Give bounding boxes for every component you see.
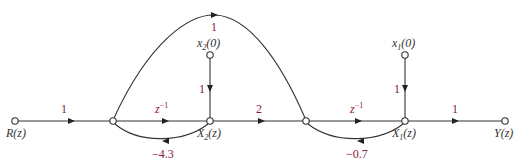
- label-x2: X2(z): [196, 126, 221, 142]
- signal-flow-graph: 1 z−1 2 z−1 1 1 −4.3 −0.7 1 1 R(z) X2(z)…: [0, 0, 520, 166]
- label-r: R(z): [5, 126, 26, 140]
- gain-x2-0: 1: [199, 82, 205, 96]
- node-x1-0: [402, 52, 408, 58]
- label-y: Y(z): [494, 126, 513, 140]
- edge-x2-to-a-feedback: [115, 124, 208, 139]
- arrow-icon-r-a: [68, 118, 75, 124]
- arrow-icon-x1-0: [402, 85, 408, 92]
- node-x1: [402, 118, 408, 124]
- gain-b-x1: z−1: [349, 101, 363, 116]
- arrow-icon-x1-y: [452, 118, 459, 124]
- node-b: [303, 118, 309, 124]
- label-x2-0: x2(0): [196, 36, 220, 52]
- gain-x2-b: 2: [256, 102, 262, 116]
- arrow-icon-a-x2: [162, 118, 169, 124]
- arrow-icon-x2-b: [258, 118, 265, 124]
- node-x2: [207, 118, 213, 124]
- label-x1-0: x1(0): [391, 36, 415, 52]
- node-r: [12, 118, 18, 124]
- node-y: [502, 118, 508, 124]
- edge-x1-to-b-feedback: [308, 124, 403, 139]
- gain-fb-x2-a: −4.3: [152, 147, 174, 161]
- node-x2-0: [207, 52, 213, 58]
- arrow-icon-arc: [211, 12, 218, 18]
- gain-a-x2: z−1: [154, 101, 168, 116]
- gain-x1-0: 1: [394, 82, 400, 96]
- gain-fb-x1-b: −0.7: [346, 147, 368, 161]
- gain-x1-y: 1: [452, 102, 458, 116]
- arrow-icon-b-x1: [355, 118, 362, 124]
- gain-arc: 1: [211, 20, 217, 34]
- gain-r-a: 1: [61, 102, 67, 116]
- node-a: [110, 118, 116, 124]
- arrow-icon-x2-0: [207, 85, 213, 92]
- label-x1: X1(z): [391, 126, 416, 142]
